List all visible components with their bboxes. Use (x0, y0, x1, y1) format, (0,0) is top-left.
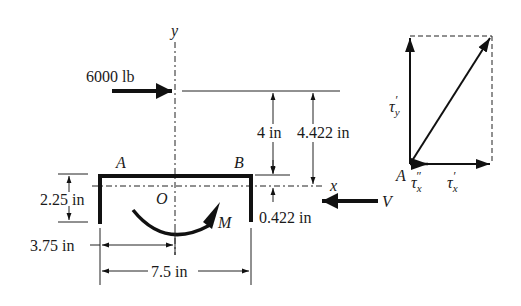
point-a-label: A (115, 154, 126, 171)
y-axis-label: y (169, 22, 179, 40)
tau-y-prime-label: τy′ (389, 93, 400, 118)
dimension-4-422in: 4.422 in (295, 93, 357, 184)
dimension-0-422in: 0.422 in (259, 160, 311, 226)
x-axis: x (92, 177, 337, 194)
svg-text:4 in: 4 in (257, 124, 281, 141)
svg-text:0.422 in: 0.422 in (259, 209, 311, 226)
vector-origin-label: A (395, 167, 406, 184)
dimension-2-25in: 2.25 in (40, 174, 88, 222)
shear-label: V (382, 193, 394, 210)
svg-text:2.25 in: 2.25 in (40, 191, 84, 208)
shear-stress-vector-diagram: τy′ A τx″ τx′ (389, 36, 492, 194)
svg-text:3.75 in: 3.75 in (30, 237, 74, 254)
y-axis: y (169, 22, 179, 255)
origin-label: O (156, 190, 168, 207)
channel-section-diagram: y x 6000 lb A B O M 4 in 4.422 in (0, 0, 521, 306)
moment-label: M (217, 214, 233, 231)
dimension-3-75in: 3.75 in (30, 228, 251, 285)
resultant-vector (410, 38, 490, 164)
shear-force-v-arrow: V (322, 193, 394, 210)
x-axis-label: x (329, 177, 337, 194)
dimension-4in: 4 in (254, 93, 290, 173)
dimension-7-5in: 7.5 in (102, 262, 249, 280)
moment-arrow: M (133, 202, 233, 235)
point-b-label: B (234, 154, 244, 171)
force-label: 6000 lb (86, 68, 134, 85)
force-6000lb-arrow: 6000 lb (86, 68, 172, 91)
tau-x-prime-label: τx′ (447, 169, 458, 194)
svg-text:7.5 in: 7.5 in (151, 263, 187, 280)
tau-x-double-prime-label: τx″ (411, 169, 422, 194)
svg-text:4.422 in: 4.422 in (297, 124, 349, 141)
